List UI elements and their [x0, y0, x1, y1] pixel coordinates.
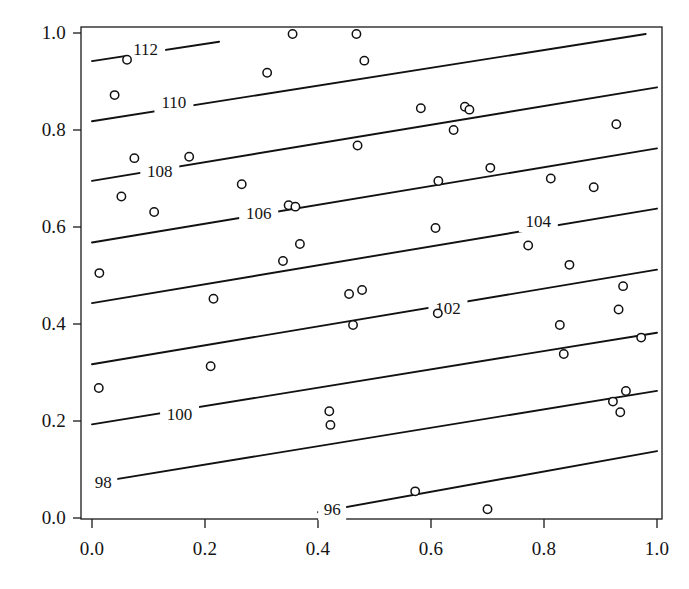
- x-tick-label-0.2: 0.2: [193, 538, 217, 560]
- contour-line-104: [92, 209, 657, 304]
- data-point: [110, 91, 118, 99]
- contour-line-102: [92, 270, 657, 365]
- x-tick-label-0.0: 0.0: [80, 538, 104, 560]
- contour-label-98: 98: [95, 473, 112, 492]
- y-tick-label-0.4: 0.4: [16, 313, 66, 335]
- data-point: [353, 141, 361, 149]
- plot-canvas: 9698100102104106108110112: [0, 0, 689, 589]
- data-point: [117, 192, 125, 200]
- x-tick-label-0.8: 0.8: [532, 538, 556, 560]
- data-point: [95, 384, 103, 392]
- data-point: [185, 152, 193, 160]
- data-point: [417, 104, 425, 112]
- contour-label-104: 104: [526, 212, 552, 231]
- data-point: [547, 174, 555, 182]
- data-point: [130, 154, 138, 162]
- contour-line-96: [318, 451, 657, 512]
- data-point: [238, 180, 246, 188]
- data-point: [345, 290, 353, 298]
- data-point: [465, 105, 473, 113]
- data-point: [434, 309, 442, 317]
- data-point: [352, 30, 360, 38]
- data-point: [449, 126, 457, 134]
- data-point: [263, 69, 271, 77]
- data-point: [590, 183, 598, 191]
- y-axis-ticks: [73, 33, 81, 518]
- data-point: [288, 30, 296, 38]
- data-point: [486, 164, 494, 172]
- data-point: [279, 257, 287, 265]
- y-tick-label-0.6: 0.6: [16, 216, 66, 238]
- y-tick-label-0.0: 0.0: [16, 507, 66, 529]
- data-point: [556, 321, 564, 329]
- contour-label-112: 112: [133, 40, 158, 59]
- data-point: [565, 261, 573, 269]
- data-point: [637, 333, 645, 341]
- y-tick-label-0.2: 0.2: [16, 410, 66, 432]
- data-point: [434, 177, 442, 185]
- x-tick-label-1.0: 1.0: [645, 538, 669, 560]
- data-point: [95, 269, 103, 277]
- data-point: [326, 421, 334, 429]
- data-point: [619, 282, 627, 290]
- data-point: [209, 295, 217, 303]
- data-point: [358, 286, 366, 294]
- data-point: [150, 208, 158, 216]
- contour-label-108: 108: [147, 162, 173, 181]
- contour-label-100: 100: [167, 405, 193, 424]
- data-point: [431, 224, 439, 232]
- contour-label-110: 110: [161, 93, 186, 112]
- data-point: [325, 407, 333, 415]
- x-axis-ticks: [92, 519, 657, 528]
- x-tick-label-0.4: 0.4: [306, 538, 330, 560]
- contour-label-106: 106: [246, 204, 272, 223]
- contour-scatter-figure: 9698100102104106108110112 0.00.20.40.60.…: [0, 0, 689, 589]
- data-point: [291, 202, 299, 210]
- data-point: [296, 240, 304, 248]
- data-point: [616, 408, 624, 416]
- contour-label-group: 9698100102104106108110112: [89, 38, 558, 521]
- data-point: [411, 487, 419, 495]
- data-point: [349, 321, 357, 329]
- data-point: [622, 387, 630, 395]
- contour-label-96: 96: [324, 500, 341, 519]
- data-point: [206, 362, 214, 370]
- data-point: [612, 120, 620, 128]
- data-point: [609, 397, 617, 405]
- data-point: [560, 350, 568, 358]
- y-tick-label-1.0: 1.0: [16, 22, 66, 44]
- data-point: [360, 56, 368, 64]
- x-tick-label-0.6: 0.6: [419, 538, 443, 560]
- data-point: [614, 305, 622, 313]
- data-point: [524, 241, 532, 249]
- data-point: [123, 55, 131, 63]
- y-tick-label-0.8: 0.8: [16, 119, 66, 141]
- data-point: [483, 505, 491, 513]
